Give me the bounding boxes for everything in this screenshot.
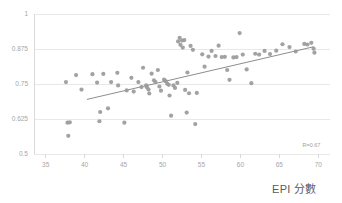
data-point [245, 67, 249, 71]
data-point [238, 31, 242, 35]
data-point [136, 80, 140, 84]
y-tick-label-0: 0.5 [19, 150, 28, 157]
data-point [98, 110, 102, 114]
data-point [141, 66, 145, 70]
data-point [280, 42, 284, 46]
x-tick-label-0: 35 [42, 161, 50, 168]
data-point [153, 80, 157, 84]
data-point [74, 73, 78, 77]
data-point [167, 93, 171, 97]
data-point [79, 88, 83, 92]
ytick-labels-group: 0.50.6250.750.8751 [12, 10, 29, 157]
data-point [268, 52, 272, 56]
scatter-chart: 0.50.6250.750.8751 3540455055606570 EPI … [0, 0, 342, 203]
data-point [234, 55, 238, 59]
data-point [257, 53, 261, 57]
data-point [200, 52, 204, 56]
data-point [305, 42, 309, 46]
data-point [95, 81, 99, 85]
x-tick-label-3: 50 [159, 161, 167, 168]
data-point [312, 51, 316, 55]
x-tick-label-2: 45 [120, 161, 128, 168]
data-point [210, 49, 214, 53]
data-point [116, 83, 120, 87]
data-point [225, 68, 229, 72]
data-point [139, 85, 143, 89]
data-point [206, 54, 210, 58]
data-point [195, 91, 199, 95]
x-tick-label-7: 70 [315, 161, 323, 168]
data-point [274, 49, 278, 53]
xtick-labels-group: 3540455055606570 [42, 161, 322, 168]
data-point [309, 41, 313, 45]
data-point [183, 88, 187, 92]
data-point [169, 114, 173, 118]
y-tick-label-4: 1 [24, 10, 28, 17]
x-axis-title: EPI 分數 [272, 180, 317, 196]
data-point [146, 88, 150, 92]
data-point [187, 91, 191, 95]
data-point [185, 70, 189, 74]
data-point [109, 80, 113, 84]
data-point [106, 106, 110, 110]
data-point [202, 65, 206, 69]
data-point [249, 81, 253, 85]
data-point [188, 44, 192, 48]
data-point [191, 48, 195, 52]
chart-canvas: 0.50.6250.750.8751 3540455055606570 [0, 0, 342, 203]
data-point [217, 44, 221, 48]
data-point [193, 122, 197, 126]
data-point [223, 55, 227, 59]
data-point [175, 81, 179, 85]
data-point [150, 72, 154, 76]
correlation-annotation: R=0.67 [303, 142, 321, 148]
x-tick-label-1: 40 [81, 161, 89, 168]
x-tick-label-6: 65 [276, 161, 284, 168]
data-point [167, 83, 171, 87]
data-point [262, 49, 266, 53]
axis-group [34, 14, 318, 158]
data-point [66, 134, 70, 138]
x-tick-label-4: 55 [198, 161, 206, 168]
y-tick-label-2: 0.75 [15, 80, 28, 87]
data-point [159, 89, 163, 93]
data-point [132, 89, 136, 93]
data-point [122, 121, 126, 125]
y-tick-label-1: 0.625 [12, 115, 29, 122]
data-point [253, 52, 257, 56]
data-point [156, 68, 160, 72]
data-point [287, 45, 291, 49]
data-point [185, 110, 189, 114]
data-point [125, 88, 129, 92]
data-point [241, 53, 245, 57]
data-point [64, 80, 68, 84]
data-point [101, 72, 105, 76]
data-point [182, 38, 186, 42]
data-point [90, 72, 94, 76]
data-point [147, 91, 151, 95]
data-point [227, 78, 231, 82]
data-point [68, 120, 72, 124]
data-point [157, 84, 161, 88]
data-point [173, 86, 177, 90]
data-point [115, 71, 119, 75]
data-point [312, 47, 316, 51]
data-point [129, 76, 133, 80]
y-tick-label-3: 0.875 [12, 45, 29, 52]
data-point [294, 49, 298, 53]
x-tick-label-5: 60 [237, 161, 245, 168]
data-point [213, 54, 217, 58]
data-point [181, 46, 185, 50]
gridlines-group [34, 14, 330, 154]
data-point [97, 119, 101, 123]
